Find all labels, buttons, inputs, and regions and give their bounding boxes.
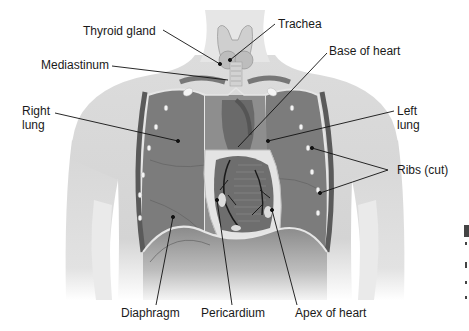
label-trachea: Trachea [278,17,322,31]
label-mediastinum: Mediastinum [41,58,109,72]
label-thyroid-gland: Thyroid gland [83,24,156,38]
diaphragm-shape [143,227,327,300]
label-right-lung: Right lung [22,104,54,132]
label-diaphragm: Diaphragm [121,306,180,320]
label-ribs-cut: Ribs (cut) [397,163,448,177]
label-base-of-heart: Base of heart [329,44,400,58]
label-pericardium: Pericardium [201,306,265,320]
label-left-lung: Left lung [397,104,427,132]
thorax-diagram: Thyroid gland Trachea Mediastinum Base o… [0,0,469,331]
heart-pericardium [204,150,281,239]
right-lung-shape [141,90,205,251]
adjacent-figure-fragment [464,225,469,299]
label-apex-of-heart: Apex of heart [295,306,366,320]
